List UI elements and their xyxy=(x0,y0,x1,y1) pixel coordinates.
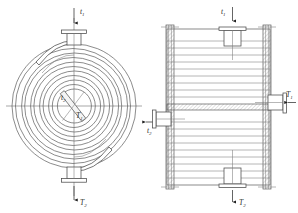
center-divider-band xyxy=(167,104,270,110)
heat-exchanger-figure: t1 T2 t2 T1 t2 xyxy=(0,0,298,213)
figure-canvas: t1 T2 t2 T1 t2 xyxy=(0,0,298,213)
